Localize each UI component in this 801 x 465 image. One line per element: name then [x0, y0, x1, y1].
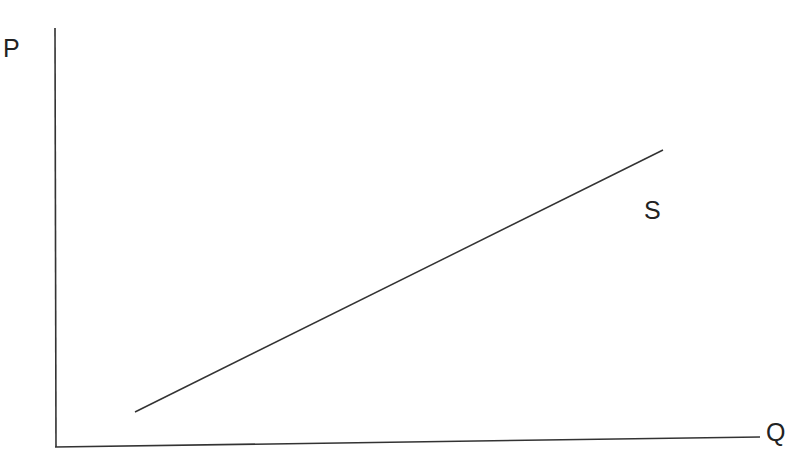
supply-curve-label: S — [644, 198, 661, 223]
y-axis-label: P — [3, 36, 20, 61]
supply-diagram — [0, 0, 801, 465]
x-axis — [55, 437, 760, 447]
supply-curve — [135, 150, 663, 412]
y-axis — [55, 28, 56, 447]
x-axis-label: Q — [766, 420, 785, 445]
